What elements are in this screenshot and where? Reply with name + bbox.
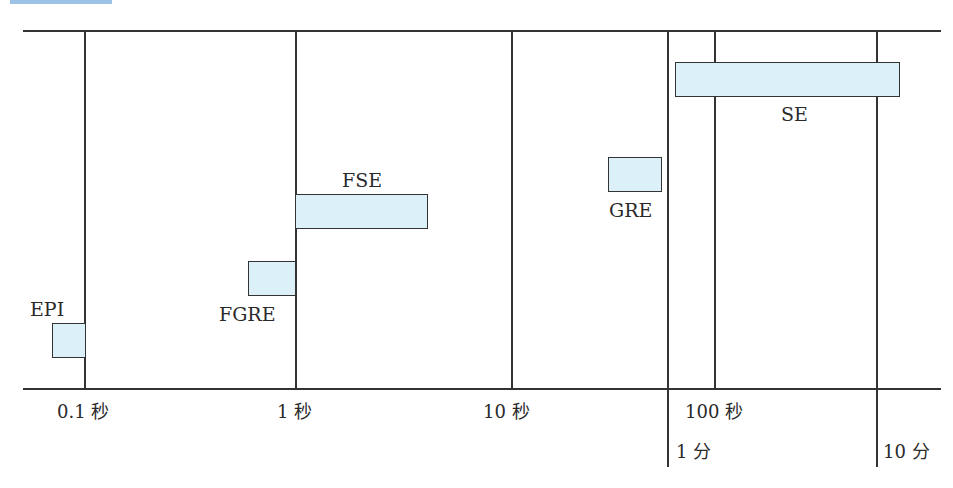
tick-label-10min: 10 分: [883, 443, 930, 461]
top-border-line: [23, 30, 941, 32]
corner-tab-decoration: [10, 0, 112, 4]
x-axis-line: [23, 388, 941, 390]
label-se: SE: [781, 105, 808, 124]
tick-label-1min: 1 分: [676, 443, 711, 461]
label-gre: GRE: [609, 201, 652, 220]
bar-gre: [608, 157, 662, 192]
bar-fgre: [248, 261, 296, 296]
label-fgre: FGRE: [219, 305, 276, 324]
bar-se: [675, 62, 900, 97]
tick-label-100s: 100 秒: [685, 403, 743, 421]
bar-epi: [52, 323, 86, 358]
gridline-10s: [511, 30, 513, 389]
label-fse: FSE: [342, 171, 382, 190]
bar-fse: [295, 194, 428, 229]
tick-label-10s: 10 秒: [483, 403, 530, 421]
tick-label-1s: 1 秒: [277, 403, 312, 421]
gridline-1min: [667, 30, 669, 467]
tick-label-0.1s: 0.1 秒: [57, 403, 109, 421]
label-epi: EPI: [30, 300, 64, 319]
